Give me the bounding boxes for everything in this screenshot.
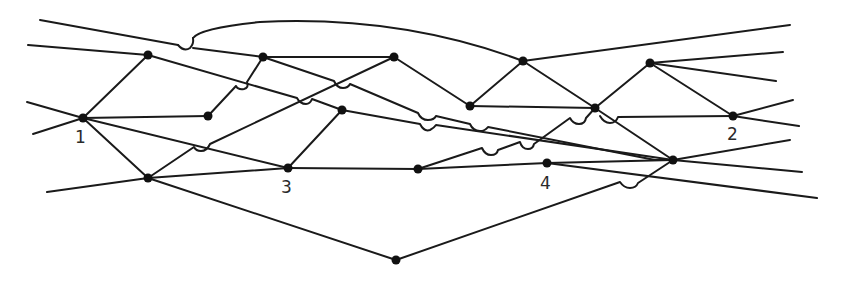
stub-left-a <box>28 45 148 55</box>
node-1[interactable] <box>79 114 88 123</box>
hop-top-arc <box>178 38 193 49</box>
node-2[interactable] <box>729 112 738 121</box>
stub-top-left-continued <box>193 48 263 57</box>
network-diagram: 1 3 4 2 <box>0 0 844 283</box>
label-node-3: 3 <box>281 177 292 197</box>
node-e[interactable] <box>338 106 347 115</box>
external-stubs <box>27 20 817 198</box>
edge-e-3 <box>288 110 342 168</box>
node-l[interactable] <box>669 156 678 165</box>
node-4[interactable] <box>543 159 552 168</box>
stub-top-left <box>40 20 178 45</box>
edge-1-a <box>83 55 148 118</box>
stub-right-2a <box>733 100 793 116</box>
label-node-1: 1 <box>75 127 86 147</box>
edge-g-j <box>470 106 595 108</box>
stub-left-1a <box>27 102 83 118</box>
node-f[interactable] <box>144 174 153 183</box>
edge-g-h <box>470 61 523 106</box>
node-c[interactable] <box>204 112 213 121</box>
edge-i-4 <box>418 163 547 169</box>
edge-d-f <box>148 57 394 178</box>
label-node-4: 4 <box>540 173 551 193</box>
edge-1-c <box>83 116 208 118</box>
stub-left-f <box>47 178 148 192</box>
node-i[interactable] <box>414 165 423 174</box>
node-j[interactable] <box>591 104 600 113</box>
edges <box>83 55 733 260</box>
stub-right-k1 <box>650 52 783 63</box>
stub-right-l2 <box>673 160 802 172</box>
stub-right-k2 <box>650 63 776 81</box>
edge-f-m <box>148 178 396 260</box>
edge-m-l <box>396 160 673 260</box>
edge-1-f <box>83 118 148 178</box>
edge-3-i <box>288 168 418 169</box>
edge-a-e <box>148 55 342 110</box>
edge-d-g <box>394 57 470 106</box>
edge-4-l <box>547 160 673 163</box>
edge-j-2 <box>600 116 733 123</box>
edge-f-3 <box>148 168 288 178</box>
label-node-2: 2 <box>727 124 738 144</box>
edge-1-3 <box>83 118 288 168</box>
edge-h-j <box>523 61 595 108</box>
node-g[interactable] <box>466 102 475 111</box>
node-d[interactable] <box>390 53 399 62</box>
edge-k-2 <box>650 63 733 116</box>
node-3[interactable] <box>284 164 293 173</box>
node-b[interactable] <box>259 53 268 62</box>
stub-right-2b <box>733 116 799 126</box>
node-a[interactable] <box>144 51 153 60</box>
node-h[interactable] <box>519 57 528 66</box>
edge-j-k <box>595 63 650 108</box>
node-k[interactable] <box>646 59 655 68</box>
node-m[interactable] <box>392 256 401 265</box>
